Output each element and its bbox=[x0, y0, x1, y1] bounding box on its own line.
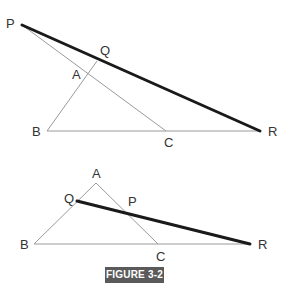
figure-caption: FIGURE 3-2 bbox=[105, 267, 164, 283]
label-C-top: C bbox=[164, 135, 173, 150]
top-diagram: P Q A B C R bbox=[6, 16, 277, 150]
label-B-bottom: B bbox=[20, 237, 29, 252]
label-C-bottom: C bbox=[156, 249, 165, 264]
label-Q-bottom: Q bbox=[64, 191, 74, 206]
bottom-diagram: A Q P B C R bbox=[20, 166, 267, 264]
label-P-bottom: P bbox=[128, 194, 137, 209]
label-P-top: P bbox=[6, 16, 15, 31]
label-R-top: R bbox=[268, 124, 277, 139]
label-R-bottom: R bbox=[258, 237, 267, 252]
label-A-bottom: A bbox=[92, 166, 101, 181]
transversal-QR bbox=[77, 201, 250, 244]
figure-canvas: P Q A B C R A Q P B C R bbox=[0, 0, 292, 296]
label-Q-top: Q bbox=[100, 43, 110, 58]
label-B-top: B bbox=[32, 124, 41, 139]
transversal-PR bbox=[22, 25, 260, 131]
label-A-top: A bbox=[72, 67, 81, 82]
